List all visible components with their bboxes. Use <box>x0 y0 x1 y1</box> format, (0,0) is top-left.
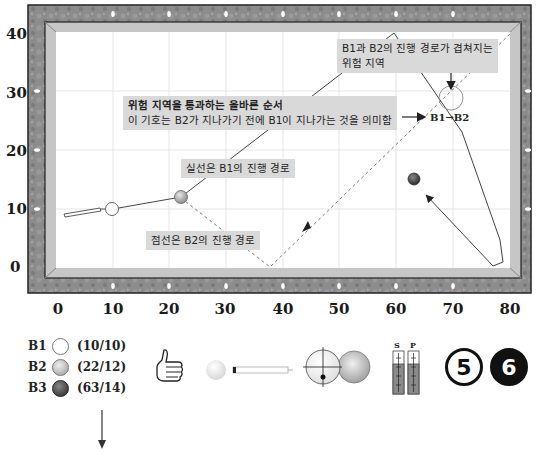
thumbs-up-icon <box>152 348 186 388</box>
y-tick-10: 10 <box>6 200 27 218</box>
note-solid-line: 실선은 B1의 진행 경로 <box>181 159 295 178</box>
gauge-label-s: S <box>394 340 400 350</box>
y-tick-20: 20 <box>6 142 27 160</box>
legend-item-b3: B3 (63/14) <box>28 379 126 397</box>
x-tick-30: 30 <box>215 300 236 318</box>
ball-contact-icon <box>301 344 371 390</box>
gauge-label-p: P <box>410 340 416 350</box>
ball-b1-icon <box>52 338 69 355</box>
ball-b3-icon <box>52 380 69 397</box>
x-tick-40: 40 <box>273 300 294 318</box>
x-tick-70: 70 <box>443 300 464 318</box>
y-tick-30: 30 <box>6 84 27 102</box>
down-arrow-icon <box>97 410 107 450</box>
x-tick-10: 10 <box>103 300 124 318</box>
ball-b3 <box>408 173 420 185</box>
y-tick-40: 40 <box>6 25 27 43</box>
spin-power-gauge-icon <box>392 350 422 396</box>
note-danger-zone: B1과 B2의 진행 경로가 겹쳐지는 위험 지역 <box>337 39 498 73</box>
x-tick-50: 50 <box>329 300 350 318</box>
ball-b2 <box>175 191 188 204</box>
order-symbol: B1→B2 <box>430 112 469 123</box>
x-tick-20: 20 <box>159 300 180 318</box>
note-correct-order: 위험 지역을 통과하는 올바른 순서 이 기호는 B2가 지나가기 전에 B1이… <box>123 96 397 130</box>
x-tick-0: 0 <box>53 300 63 318</box>
legend-coord: (10/10) <box>77 339 126 353</box>
x-tick-80: 80 <box>500 300 521 318</box>
y-tick-0: 0 <box>10 258 20 276</box>
legend-item-b1: B1 (10/10) <box>28 337 126 355</box>
cue-ball-with-cue-icon <box>205 358 295 382</box>
legend-item-b2: B2 (22/12) <box>28 358 126 376</box>
ball-b1 <box>106 203 119 216</box>
note-dashed-line: 점선은 B2의 진행 경로 <box>146 231 260 250</box>
legend-key: B3 <box>28 381 52 395</box>
ball-5-icon: 5 <box>445 348 483 386</box>
billiards-diagram: B1→B2 B1과 B2의 진행 경로가 겹쳐지는 위험 지역 위험 지역을 통… <box>0 0 540 454</box>
legend-key: B1 <box>28 339 52 353</box>
legend-coord: (22/12) <box>77 360 126 374</box>
ball-6-icon: 6 <box>490 348 528 386</box>
legend-key: B2 <box>28 360 52 374</box>
x-tick-60: 60 <box>386 300 407 318</box>
legend-coord: (63/14) <box>77 381 126 395</box>
ball-b2-icon <box>52 359 69 376</box>
